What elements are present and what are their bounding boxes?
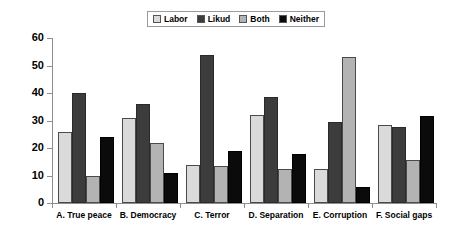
legend-swatch-icon: [239, 15, 247, 23]
x-axis-tick: [244, 203, 245, 208]
y-axis-tick-label: 0: [38, 196, 44, 209]
chart-legend: LaborLikudBothNeither: [147, 11, 325, 27]
y-axis-tick-label: 50: [32, 59, 44, 72]
legend-entry-labor: Labor: [153, 15, 188, 24]
bar-labor: [378, 125, 392, 203]
x-axis-category-label: A. True peace: [52, 210, 116, 220]
x-axis-category-label: C. Terror: [180, 210, 244, 220]
bar-neither: [100, 137, 114, 203]
legend-swatch-icon: [197, 15, 205, 23]
bar-both: [278, 169, 292, 203]
legend-label: Labor: [164, 15, 188, 24]
legend-swatch-icon: [153, 15, 161, 23]
legend-entry-likud: Likud: [197, 15, 231, 24]
x-axis-tick: [372, 203, 373, 208]
bar-group: [122, 38, 178, 203]
bar-both: [342, 57, 356, 203]
bar-group: [314, 38, 370, 203]
legend-label: Neither: [290, 15, 319, 24]
x-axis-category-label: E. Corruption: [308, 210, 372, 220]
x-axis-tick: [436, 203, 437, 208]
bar-labor: [314, 169, 328, 203]
plot-area: 0102030405060: [52, 38, 436, 203]
legend-label: Both: [250, 15, 269, 24]
bar-group: [186, 38, 242, 203]
bar-likud: [136, 104, 150, 203]
y-axis-tick-label: 60: [32, 31, 44, 44]
x-axis-tick: [116, 203, 117, 208]
bar-group: [378, 38, 434, 203]
bar-neither: [164, 173, 178, 203]
bar-group: [58, 38, 114, 203]
bar-neither: [292, 154, 306, 204]
y-axis-tick: 60: [47, 38, 52, 39]
bar-both: [406, 160, 420, 203]
x-axis-tick: [52, 203, 53, 208]
y-axis-tick-label: 10: [32, 169, 44, 182]
bar-both: [150, 143, 164, 204]
x-axis-category-label: F. Social gaps: [372, 210, 436, 220]
y-axis-tick: 50: [47, 66, 52, 67]
x-axis-tick: [180, 203, 181, 208]
y-axis-tick: 30: [47, 121, 52, 122]
bar-neither: [228, 151, 242, 203]
legend-entry-both: Both: [239, 15, 269, 24]
bar-labor: [58, 132, 72, 204]
y-axis-tick: 40: [47, 93, 52, 94]
bar-neither: [356, 187, 370, 204]
x-axis-category-label: D. Separation: [244, 210, 308, 220]
bar-likud: [328, 122, 342, 203]
y-axis-line: [52, 38, 53, 203]
x-axis-tick: [308, 203, 309, 208]
bar-neither: [420, 116, 434, 203]
bar-likud: [72, 93, 86, 203]
y-axis-tick: 10: [47, 176, 52, 177]
bar-chart-figure: LaborLikudBothNeither 0102030405060 A. T…: [0, 0, 450, 235]
y-axis-tick-label: 20: [32, 141, 44, 154]
y-axis-tick-label: 30: [32, 114, 44, 127]
x-axis-category-label: B. Democracy: [116, 210, 180, 220]
bar-group: [250, 38, 306, 203]
bar-both: [86, 176, 100, 204]
bar-likud: [392, 127, 406, 203]
y-axis-tick-label: 40: [32, 86, 44, 99]
bar-labor: [186, 165, 200, 204]
legend-swatch-icon: [279, 15, 287, 23]
y-axis-tick: 20: [47, 148, 52, 149]
legend-entry-neither: Neither: [279, 15, 319, 24]
bar-labor: [122, 118, 136, 203]
legend-label: Likud: [208, 15, 231, 24]
bar-labor: [250, 115, 264, 203]
bar-likud: [200, 55, 214, 204]
bar-likud: [264, 97, 278, 203]
bar-both: [214, 166, 228, 203]
